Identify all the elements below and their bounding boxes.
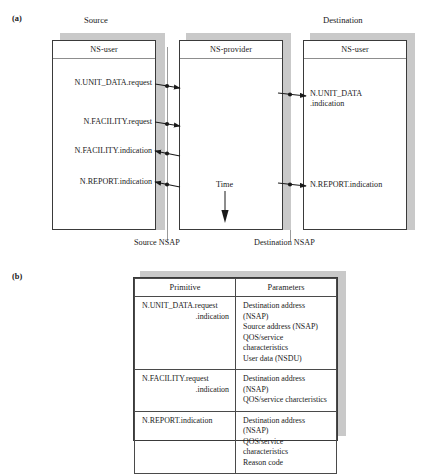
panel-b-letter: (b)	[12, 272, 22, 281]
caption-destination: Destination	[323, 16, 363, 26]
ns-provider-header-label: NS-provider	[210, 45, 252, 54]
destination-message-1-line1: N.UNIT_DATA	[310, 89, 362, 98]
caption-source: Source	[84, 16, 108, 26]
table-cell-parameters-2: Destination address (NSAP) QOS/service c…	[236, 370, 337, 412]
primitive-2-line2: .indication	[142, 385, 229, 396]
ns-provider-header: NS-provider	[180, 41, 282, 59]
table-cell-primitive-2: N.FACILITY.request .indication	[135, 370, 236, 412]
table-cell-primitive-3: N.REPORT.indication	[135, 411, 236, 474]
parameter-item: QOS/service characteristics	[243, 437, 330, 458]
table-cell-parameters-3: Destination address (NSAP) QOS/service c…	[236, 411, 337, 474]
table-header-primitive: Primitive	[135, 279, 236, 297]
table-row: N.UNIT_DATA.request .indication Destinat…	[135, 297, 337, 370]
primitives-table-frame: Primitive Parameters N.UNIT_DATA.request…	[133, 277, 338, 441]
source-message-2: N.FACILITY.request	[46, 117, 152, 126]
parameter-item: Destination address (NSAP)	[243, 416, 330, 437]
time-label: Time	[216, 180, 233, 189]
table-header-row: Primitive Parameters	[135, 279, 337, 297]
source-nsap-line	[167, 47, 168, 241]
table-row: N.REPORT.indication Destination address …	[135, 411, 337, 474]
parameter-item: Source address (NSAP)	[243, 322, 330, 333]
source-ns-user-header-label: NS-user	[90, 45, 118, 54]
table-row: N.FACILITY.request .indication Destinati…	[135, 370, 337, 412]
primitives-table: Primitive Parameters N.UNIT_DATA.request…	[134, 278, 337, 474]
source-message-3: N.FACILITY.indication	[46, 146, 152, 155]
destination-nsap-label: Destination NSAP	[254, 238, 315, 247]
source-ns-user-header: NS-user	[53, 41, 155, 59]
destination-ns-user-box: NS-user	[303, 40, 407, 230]
parameter-item: User data (NSDU)	[243, 354, 330, 365]
source-nsap-label: Source NSAP	[134, 238, 180, 247]
primitive-1-line1: N.UNIT_DATA.request	[142, 301, 229, 312]
destination-ns-user-header: NS-user	[304, 41, 406, 59]
source-ns-user-box: NS-user	[52, 40, 156, 230]
destination-ns-user-header-label: NS-user	[341, 45, 369, 54]
ns-provider-box: NS-provider	[179, 40, 283, 230]
parameter-item: Destination address (NSAP)	[243, 374, 330, 395]
panel-a-letter: (a)	[12, 14, 22, 23]
primitive-1-line2: .indication	[142, 312, 229, 323]
parameter-item: Reason code	[243, 458, 330, 469]
destination-message-1-line2: .indication	[310, 99, 344, 108]
primitive-2-line1: N.FACILITY.request	[142, 374, 229, 385]
primitive-3-line1: N.REPORT.indication	[142, 416, 229, 427]
destination-message-2-line1: N.REPORT.indication	[310, 180, 382, 189]
table-cell-parameters-1: Destination address (NSAP) Source addres…	[236, 297, 337, 370]
source-message-4: N.REPORT.indication	[46, 177, 152, 186]
table-header-parameters: Parameters	[236, 279, 337, 297]
source-message-1: N.UNIT_DATA.request	[46, 78, 152, 87]
parameter-item: QOS/service characteristics	[243, 333, 330, 354]
parameter-item: QOS/service charcteristics	[243, 395, 330, 406]
parameter-item: Destination address (NSAP)	[243, 301, 330, 322]
table-cell-primitive-1: N.UNIT_DATA.request .indication	[135, 297, 236, 370]
